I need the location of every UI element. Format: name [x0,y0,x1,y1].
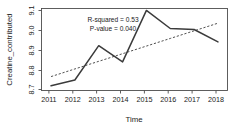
x-tick-label: 2011 [41,95,56,104]
y-tick-label: 9.0 [27,26,36,36]
y-axis-title: Creatine_contributed [5,13,14,85]
x-tick-label: 2017 [184,95,200,104]
p-value-annotation: P-value = 0.040 [90,25,137,32]
x-tick-label: 2018 [208,95,224,104]
y-tick-label: 8.8 [27,66,36,76]
x-axis-title: Time [125,115,142,124]
y-tick-label: 8.7 [27,85,36,95]
x-tick-label: 2016 [160,95,176,104]
scatter-regression-chart: 8.7 8.8 8.9 9.0 9.1 Creatine_contributed… [0,0,242,129]
x-tick-label: 2014 [113,95,129,104]
y-tick-label: 8.9 [27,46,36,56]
x-tick-label: 2013 [89,95,105,104]
y-tick-label: 9.1 [27,6,36,16]
chart-screenshot: 8.7 8.8 8.9 9.0 9.1 Creatine_contributed… [0,0,242,129]
x-tick-label: 2015 [136,95,152,104]
r-squared-annotation: R-squared = 0.53 [87,16,138,24]
x-tick-label: 2012 [65,95,81,104]
